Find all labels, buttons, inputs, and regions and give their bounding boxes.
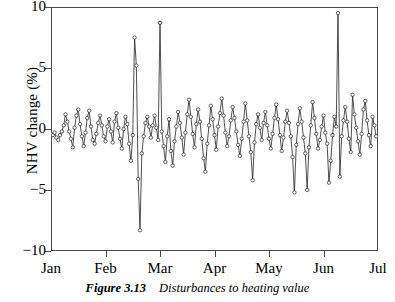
data-point <box>62 124 65 127</box>
x-tick-label: Apr <box>203 260 226 277</box>
data-point <box>293 191 296 194</box>
data-point <box>246 119 249 122</box>
data-point <box>104 140 107 143</box>
data-point <box>109 130 112 133</box>
data-point <box>251 179 254 182</box>
data-point <box>89 125 92 128</box>
data-point <box>111 141 114 144</box>
data-point <box>235 130 238 133</box>
data-point <box>258 126 261 129</box>
data-point <box>196 108 199 111</box>
data-point <box>224 131 227 134</box>
data-point <box>171 164 174 167</box>
data-point <box>369 144 372 147</box>
data-point <box>164 160 167 163</box>
x-tick <box>160 251 161 257</box>
data-point <box>118 137 121 140</box>
data-point <box>60 130 63 133</box>
data-point <box>102 135 105 138</box>
data-point <box>153 114 156 117</box>
data-point <box>302 136 305 139</box>
data-point <box>173 140 176 143</box>
x-tick-label: May <box>255 260 283 277</box>
data-point <box>127 142 130 145</box>
data-point <box>58 133 61 136</box>
data-point <box>67 130 70 133</box>
data-point <box>131 133 134 136</box>
data-point <box>86 116 89 119</box>
data-point <box>117 126 120 129</box>
data-point <box>365 119 368 122</box>
data-point <box>182 153 185 156</box>
data-point <box>374 135 377 138</box>
figure-caption: Figure 3.13Disturbances to heating value <box>0 281 395 296</box>
data-point <box>80 135 83 138</box>
data-point <box>206 142 209 145</box>
data-point <box>166 135 169 138</box>
data-point <box>209 104 212 107</box>
data-point <box>329 159 332 162</box>
data-point <box>373 124 376 127</box>
y-tick-label: −10 <box>23 242 46 259</box>
data-point <box>305 188 308 191</box>
data-point <box>71 146 74 149</box>
data-point <box>236 143 239 146</box>
data-point <box>336 11 339 14</box>
data-point <box>262 121 265 124</box>
data-point <box>124 115 127 118</box>
data-point <box>57 138 60 141</box>
data-point <box>75 114 78 117</box>
data-point <box>211 118 214 121</box>
x-tick-label: Jul <box>369 260 387 277</box>
data-point <box>271 132 274 135</box>
y-tick-label: 5 <box>39 59 47 76</box>
x-tick <box>215 251 216 257</box>
figure-number: Figure 3.13 <box>86 281 146 295</box>
data-point <box>367 133 370 136</box>
data-point <box>278 133 281 136</box>
data-point <box>325 142 328 145</box>
data-point <box>222 114 225 117</box>
data-point <box>282 136 285 139</box>
data-point <box>333 115 336 118</box>
data-point <box>227 135 230 138</box>
data-point <box>253 141 256 144</box>
data-point <box>195 122 198 125</box>
data-point <box>362 108 365 111</box>
data-point <box>84 131 87 134</box>
data-point <box>91 138 94 141</box>
x-tick-label: Jun <box>313 260 334 277</box>
data-point <box>247 135 250 138</box>
data-point <box>158 21 161 24</box>
data-point <box>126 122 129 125</box>
data-point <box>93 142 96 145</box>
data-point <box>156 138 159 141</box>
data-point <box>129 159 132 162</box>
data-point <box>151 124 154 127</box>
data-point <box>146 115 149 118</box>
data-point <box>269 147 272 150</box>
data-point <box>215 148 218 151</box>
data-point <box>265 124 268 127</box>
data-point <box>256 113 259 116</box>
data-point <box>273 116 276 119</box>
data-point <box>335 125 338 128</box>
data-point <box>142 135 145 138</box>
data-point <box>280 149 283 152</box>
data-point <box>300 120 303 123</box>
data-point <box>298 107 301 110</box>
data-point <box>149 136 152 139</box>
data-point <box>338 175 341 178</box>
data-point <box>200 137 203 140</box>
data-point <box>216 125 219 128</box>
data-point <box>320 125 323 128</box>
data-point <box>189 115 192 118</box>
data-point <box>353 113 356 116</box>
data-point <box>207 124 210 127</box>
data-point <box>260 138 263 141</box>
data-point <box>137 177 140 180</box>
data-point <box>66 120 69 123</box>
data-point <box>304 152 307 155</box>
data-point <box>291 155 294 158</box>
data-point <box>347 137 350 140</box>
